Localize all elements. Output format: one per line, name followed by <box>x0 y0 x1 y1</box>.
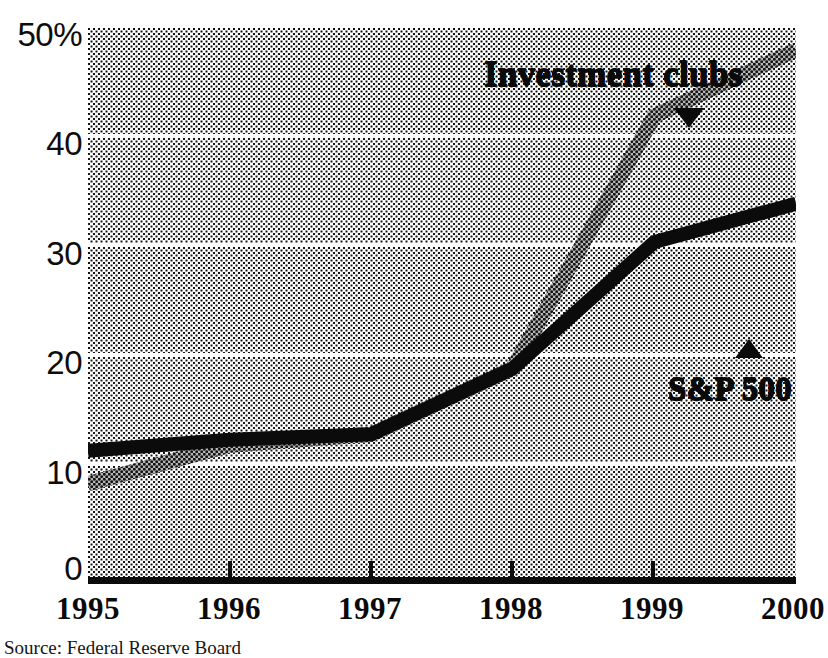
x-tick-1998 <box>510 561 514 578</box>
y-tick-label-30: 30 <box>0 237 82 270</box>
series-line-sp500 <box>88 204 796 451</box>
series-label-investment-clubs: Investment clubs <box>484 56 743 94</box>
y-axis-labels: 50% 40 30 20 10 0 <box>0 0 82 653</box>
x-tick-1996 <box>228 561 232 578</box>
x-axis-line <box>88 577 796 584</box>
y-tick-label-40: 40 <box>0 127 82 160</box>
x-tick-label-1998: 1998 <box>436 592 586 626</box>
series-label-sp500: S&P 500 <box>668 371 792 407</box>
plot-area: Investment clubs S&P 500 <box>88 28 796 577</box>
x-tick-label-1997: 1997 <box>295 592 445 626</box>
x-tick-1997 <box>369 561 373 578</box>
y-tick-label-10: 10 <box>0 456 82 489</box>
x-tick-label-1996: 1996 <box>154 592 304 626</box>
y-tick-label-0: 0 <box>0 552 82 585</box>
source-note: Source: Federal Reserve Board <box>4 637 241 658</box>
triangle-down-icon <box>674 108 704 128</box>
x-tick-1999 <box>651 561 655 578</box>
y-tick-label-20: 20 <box>0 346 82 379</box>
x-tick-label-2000: 2000 <box>718 592 828 626</box>
triangle-up-icon <box>735 339 763 358</box>
y-tick-label-50: 50% <box>0 18 82 51</box>
x-tick-label-1999: 1999 <box>577 592 727 626</box>
x-tick-label-1995: 1995 <box>13 592 163 626</box>
